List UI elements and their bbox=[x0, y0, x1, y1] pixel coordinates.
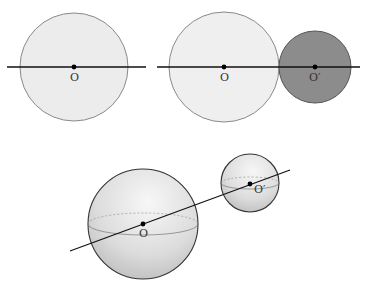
center-point-o-prime bbox=[248, 182, 253, 187]
center-point-o bbox=[222, 65, 227, 70]
center-point-o-prime bbox=[313, 65, 318, 70]
label-o-prime: O′ bbox=[254, 183, 266, 196]
label-o: O bbox=[139, 227, 148, 240]
label-o-prime: O′ bbox=[309, 71, 321, 84]
label-o: O bbox=[220, 71, 229, 84]
figure-two-circles: O O′ bbox=[157, 12, 360, 122]
center-point-o bbox=[141, 222, 146, 227]
figure-two-spheres: O O′ bbox=[70, 154, 290, 279]
diagram-canvas: O O O′ O O′ bbox=[0, 0, 367, 284]
center-point-o bbox=[72, 65, 77, 70]
figure-single-circle: O bbox=[7, 13, 146, 121]
label-o: O bbox=[70, 71, 79, 84]
